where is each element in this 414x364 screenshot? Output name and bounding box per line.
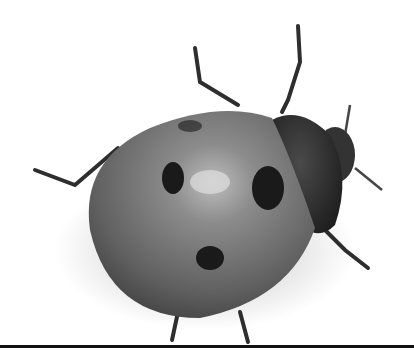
highlight xyxy=(190,170,230,194)
ladybug-illustration xyxy=(0,0,414,364)
ladybug-photo xyxy=(0,0,414,364)
baseline-rule xyxy=(0,345,414,348)
